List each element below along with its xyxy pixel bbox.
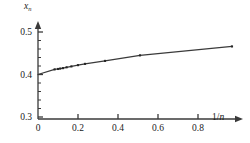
y-axis-label: xn: [24, 2, 31, 12]
x-axis-tick-label: 0.4: [112, 123, 124, 133]
data-point-marker: [57, 68, 59, 70]
data-point-marker: [62, 67, 64, 69]
x-axis-tick-label: 0.8: [192, 123, 204, 133]
data-point-marker: [70, 65, 72, 67]
y-axis-tick-label: 0.3: [20, 112, 32, 122]
data-point-marker: [59, 68, 61, 70]
data-point-marker: [231, 45, 233, 47]
data-point-marker: [54, 68, 56, 70]
figure-scatter-xn-vs-inverse-n: 0.30.40.500.20.40.60.8 xn 1/n: [0, 0, 250, 143]
x-axis-tick-label: 0.6: [152, 123, 164, 133]
x-axis-tick-label: 0.2: [72, 123, 84, 133]
x-axis-label: 1/n: [212, 113, 224, 123]
data-point-marker: [77, 64, 79, 66]
data-point-marker: [84, 63, 86, 65]
data-point-marker: [104, 60, 106, 62]
y-axis-arrow: [35, 21, 41, 29]
y-axis-tick-label: 0.5: [20, 27, 32, 37]
x-axis-arrow: [235, 116, 243, 122]
x-axis-tick-label: 0: [36, 123, 41, 133]
data-series-line: [38, 46, 232, 74]
data-point-marker: [66, 66, 68, 68]
data-point-marker: [139, 54, 141, 56]
y-axis-tick-label: 0.4: [20, 70, 32, 80]
